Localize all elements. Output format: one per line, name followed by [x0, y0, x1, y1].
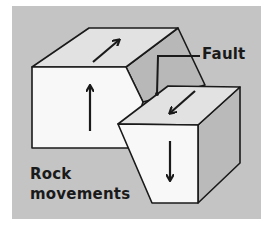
fault-leader-dot [155, 92, 159, 96]
fault-label: Fault [202, 45, 245, 63]
rock-movements-label: Rock movements [30, 164, 130, 204]
rock-movements-line1: Rock [30, 164, 130, 184]
rock-movements-line2: movements [30, 184, 130, 204]
